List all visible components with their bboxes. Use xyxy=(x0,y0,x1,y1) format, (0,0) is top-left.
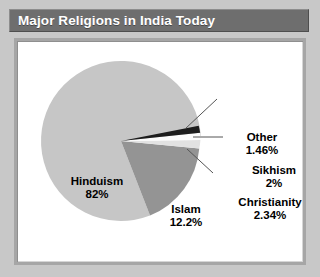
slice-label-hinduism-name: Hinduism xyxy=(56,175,138,188)
slice-label-islam: Islam 12.2% xyxy=(157,203,215,229)
slice-label-christianity-value: 2.34% xyxy=(223,209,317,222)
slice-label-islam-value: 12.2% xyxy=(157,216,215,229)
pie-chart-plot-area: Hinduism 82% Islam 12.2% Other 1.46% Sik… xyxy=(17,41,309,268)
slice-label-christianity: Christianity 2.34% xyxy=(223,196,317,222)
slice-label-islam-name: Islam xyxy=(157,203,215,216)
slice-label-other-value: 1.46% xyxy=(231,144,293,157)
slice-label-sikhism: Sikhism 2% xyxy=(238,164,310,190)
slice-label-sikhism-name: Sikhism xyxy=(238,164,310,177)
slice-label-other: Other 1.46% xyxy=(231,131,293,157)
chart-figure: Major Religions in India Today xyxy=(0,0,320,277)
slice-label-hinduism: Hinduism 82% xyxy=(56,175,138,201)
slice-label-christianity-name: Christianity xyxy=(223,196,317,209)
page-title: Major Religions in India Today xyxy=(10,13,215,28)
slice-label-other-name: Other xyxy=(231,131,293,144)
slice-label-hinduism-value: 82% xyxy=(56,188,138,201)
figure-title-bar: Major Religions in India Today xyxy=(9,9,309,32)
slice-label-sikhism-value: 2% xyxy=(238,177,310,190)
chart-frame: Hinduism 82% Islam 12.2% Other 1.46% Sik… xyxy=(14,38,306,265)
